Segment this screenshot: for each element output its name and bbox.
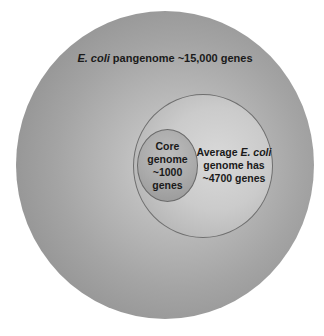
average-label-text: Average — [197, 146, 241, 158]
pangenome-label: E. coli pangenome ~15,000 genes — [0, 52, 324, 65]
pangenome-diagram: E. coli pangenome ~15,000 genes Core gen… — [0, 0, 324, 336]
average-label-species: E. coli — [241, 146, 272, 158]
pangenome-label-species: E. coli — [77, 52, 109, 64]
core-label-line-3: ~1000 — [137, 166, 198, 179]
core-label-line-1: Core — [137, 140, 198, 153]
average-label-line-1: Average E. coli — [193, 146, 275, 159]
core-label-line-4: genes — [137, 179, 198, 192]
average-genome-label: Average E. coli genome has ~4700 genes — [193, 146, 275, 185]
core-genome-label: Core genome ~1000 genes — [137, 140, 198, 192]
average-label-line-2: genome has — [193, 159, 275, 172]
core-label-line-2: genome — [137, 153, 198, 166]
pangenome-label-text: pangenome ~15,000 genes — [110, 52, 253, 64]
average-label-line-3: ~4700 genes — [193, 172, 275, 185]
